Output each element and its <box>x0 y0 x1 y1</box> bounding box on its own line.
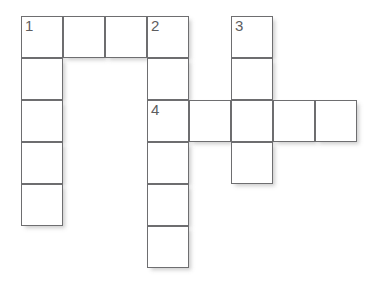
crossword-cell[interactable] <box>63 16 105 58</box>
crossword-cell[interactable] <box>147 184 189 226</box>
crossword-cell[interactable]: 1 <box>21 16 63 58</box>
crossword-cell[interactable] <box>105 16 147 58</box>
crossword-cell[interactable] <box>147 142 189 184</box>
crossword-cell[interactable] <box>21 184 63 226</box>
crossword-cell-surface <box>148 185 188 225</box>
crossword-cell-surface <box>232 101 272 141</box>
crossword-puzzle: 1234 <box>0 0 376 290</box>
crossword-cell[interactable] <box>21 100 63 142</box>
crossword-cell-surface <box>148 143 188 183</box>
crossword-cell-surface <box>148 59 188 99</box>
crossword-cell-surface <box>148 227 188 267</box>
crossword-cell[interactable] <box>21 58 63 100</box>
crossword-cell[interactable]: 2 <box>147 16 189 58</box>
crossword-cell-surface <box>22 143 62 183</box>
crossword-clue-number: 2 <box>151 17 159 35</box>
crossword-clue-number: 4 <box>151 101 159 119</box>
crossword-cell-surface <box>64 17 104 57</box>
crossword-cell-surface <box>316 101 356 141</box>
crossword-cell-surface <box>232 143 272 183</box>
crossword-cell[interactable] <box>189 100 231 142</box>
crossword-cell[interactable] <box>147 58 189 100</box>
crossword-cell-surface <box>232 59 272 99</box>
crossword-cell[interactable]: 3 <box>231 16 273 58</box>
crossword-cell-surface <box>22 185 62 225</box>
crossword-cell-surface <box>274 101 314 141</box>
crossword-cell[interactable]: 4 <box>147 100 189 142</box>
crossword-clue-number: 1 <box>25 17 33 35</box>
crossword-cell-surface <box>190 101 230 141</box>
crossword-cell[interactable] <box>315 100 357 142</box>
crossword-cell[interactable] <box>273 100 315 142</box>
crossword-grid: 1234 <box>0 0 376 290</box>
crossword-clue-number: 3 <box>235 17 243 35</box>
crossword-cell-surface <box>106 17 146 57</box>
crossword-cell[interactable] <box>21 142 63 184</box>
crossword-cell[interactable] <box>231 100 273 142</box>
crossword-cell-surface <box>22 59 62 99</box>
crossword-cell[interactable] <box>231 58 273 100</box>
crossword-cell-surface <box>22 101 62 141</box>
crossword-cell[interactable] <box>231 142 273 184</box>
crossword-cell[interactable] <box>147 226 189 268</box>
